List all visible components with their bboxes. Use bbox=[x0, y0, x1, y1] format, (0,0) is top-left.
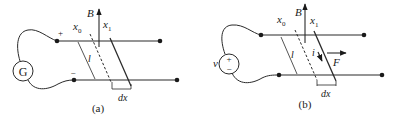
panel-a-caption: (a) bbox=[92, 102, 105, 115]
dx-bracket bbox=[317, 80, 336, 86]
x0-label: x0 bbox=[276, 13, 286, 28]
dx-label: dx bbox=[118, 92, 128, 103]
terminal-dot bbox=[380, 73, 385, 78]
length-label: l bbox=[291, 49, 294, 60]
x1-label: x1 bbox=[309, 14, 319, 29]
terminal-dot bbox=[277, 73, 282, 78]
rail-generator-diagram: G + − l B x0 x1 dx (a) + − bbox=[0, 0, 399, 120]
source-plus-sign: + bbox=[226, 54, 231, 64]
terminal-dot bbox=[55, 39, 60, 44]
x1-label: x1 bbox=[102, 18, 112, 33]
x0-label: x0 bbox=[72, 20, 82, 35]
panel-b: + − v l i F B x0 x1 dx (b) bbox=[213, 4, 384, 111]
source-minus-sign: − bbox=[226, 64, 231, 74]
galvanometer-label: G bbox=[19, 65, 28, 79]
terminal-dot bbox=[175, 78, 180, 83]
terminal-dot bbox=[72, 78, 77, 83]
sliding-bar-x1 bbox=[110, 38, 131, 86]
length-label: l bbox=[88, 53, 91, 64]
top-lead-wire bbox=[222, 25, 261, 54]
length-indicator-line bbox=[281, 37, 297, 74]
length-indicator-line bbox=[78, 42, 95, 79]
bottom-lead-wire bbox=[232, 73, 279, 83]
terminal-dot bbox=[158, 39, 163, 44]
dx-label: dx bbox=[321, 88, 331, 99]
minus-sign: − bbox=[70, 68, 75, 78]
force-label: F bbox=[332, 56, 340, 68]
panel-a: G + − l B x0 x1 dx (a) bbox=[13, 7, 179, 115]
terminal-dot bbox=[362, 33, 367, 38]
dx-bracket bbox=[112, 82, 131, 89]
plus-sign: + bbox=[58, 28, 63, 38]
current-arrow-icon bbox=[318, 52, 322, 61]
field-label: B bbox=[87, 7, 94, 19]
panel-b-caption: (b) bbox=[299, 98, 312, 111]
field-label: B bbox=[295, 6, 302, 18]
bottom-lead-wire bbox=[28, 80, 74, 89]
terminal-dot bbox=[259, 33, 264, 38]
current-label: i bbox=[312, 47, 315, 58]
source-label: v bbox=[213, 57, 218, 69]
top-lead-wire bbox=[18, 30, 57, 61]
